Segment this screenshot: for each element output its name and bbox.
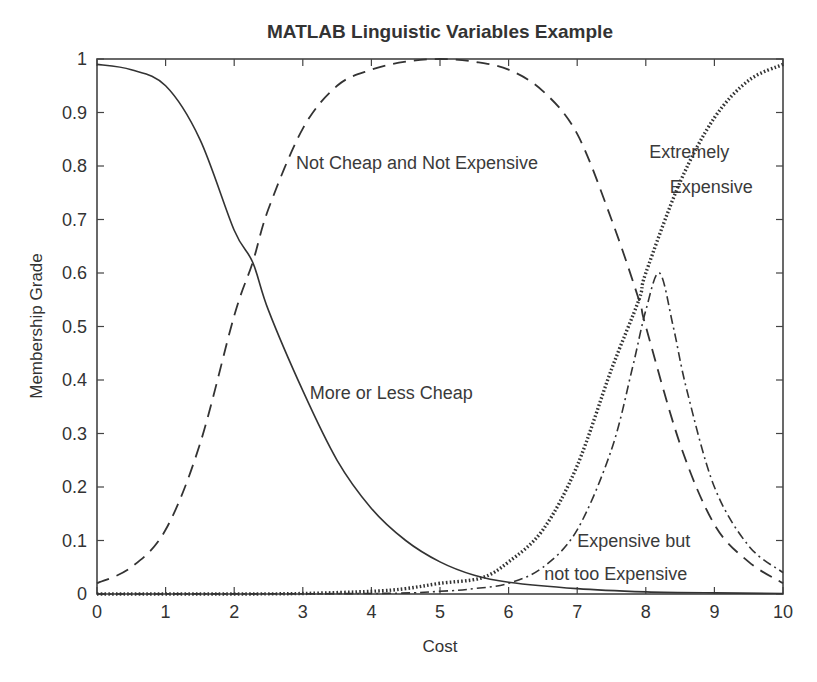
y-tick-label: 0.8 — [62, 156, 87, 176]
y-tick-label: 0.5 — [62, 317, 87, 337]
chart-canvas: MATLAB Linguistic Variables Example 0123… — [0, 0, 817, 682]
x-tick-label: 10 — [773, 602, 793, 622]
annotation-label: Not Cheap and Not Expensive — [296, 153, 538, 173]
annotation-label: Expensive but — [577, 531, 690, 551]
x-tick-label: 5 — [435, 602, 445, 622]
plot-area: 012345678910 00.10.20.30.40.50.60.70.80.… — [62, 49, 793, 622]
annotation-label: Extremely — [649, 142, 729, 162]
x-tick-label: 6 — [504, 602, 514, 622]
y-axis-ticks: 00.10.20.30.40.50.60.70.80.91 — [62, 49, 783, 604]
x-tick-label: 2 — [229, 602, 239, 622]
annotation-label: not too Expensive — [544, 564, 687, 584]
x-tick-label: 0 — [92, 602, 102, 622]
series-curves — [97, 59, 783, 594]
y-tick-label: 0.3 — [62, 424, 87, 444]
y-tick-label: 0 — [77, 584, 87, 604]
y-axis-label: Membership Grade — [27, 253, 46, 399]
y-tick-label: 0.7 — [62, 210, 87, 230]
chart-title: MATLAB Linguistic Variables Example — [267, 21, 613, 42]
y-tick-label: 0.1 — [62, 531, 87, 551]
y-tick-label: 0.2 — [62, 477, 87, 497]
x-tick-label: 8 — [641, 602, 651, 622]
y-tick-label: 0.4 — [62, 370, 87, 390]
annotation-label: Expensive — [670, 177, 753, 197]
y-tick-label: 0.6 — [62, 263, 87, 283]
y-tick-label: 1 — [77, 49, 87, 69]
x-tick-label: 3 — [298, 602, 308, 622]
x-tick-label: 7 — [572, 602, 582, 622]
y-tick-label: 0.9 — [62, 103, 87, 123]
curve-annotations: Not Cheap and Not ExpensiveExtremelyExpe… — [296, 142, 753, 584]
x-tick-label: 1 — [161, 602, 171, 622]
annotation-label: More or Less Cheap — [310, 383, 473, 403]
x-axis-label: Cost — [423, 637, 458, 656]
x-tick-label: 4 — [366, 602, 376, 622]
x-tick-label: 9 — [709, 602, 719, 622]
